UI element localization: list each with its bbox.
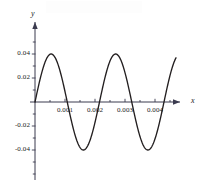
- figure-container: 0.04 0.02 -0.02 -0.04 0.001 0.002 0.003 …: [0, 0, 203, 189]
- axes-group: [30, 22, 180, 180]
- x-tick-label: 0.004: [144, 106, 166, 114]
- x-tick-label: 0.003: [114, 106, 136, 114]
- y-tick-label: -0.04: [0, 145, 30, 153]
- y-tick-label: 0.04: [0, 49, 30, 57]
- y-axis-arrowhead: [32, 22, 37, 29]
- x-tick-label: 0.001: [54, 106, 76, 114]
- x-axis-label: x: [191, 96, 195, 105]
- x-axis-arrowhead: [173, 99, 180, 104]
- y-tick-label: 0.02: [0, 73, 30, 81]
- y-tick-label: -0.02: [0, 121, 30, 129]
- plot-area: [0, 0, 203, 189]
- x-tick-label: 0.002: [84, 106, 106, 114]
- y-axis-label: y: [31, 9, 35, 18]
